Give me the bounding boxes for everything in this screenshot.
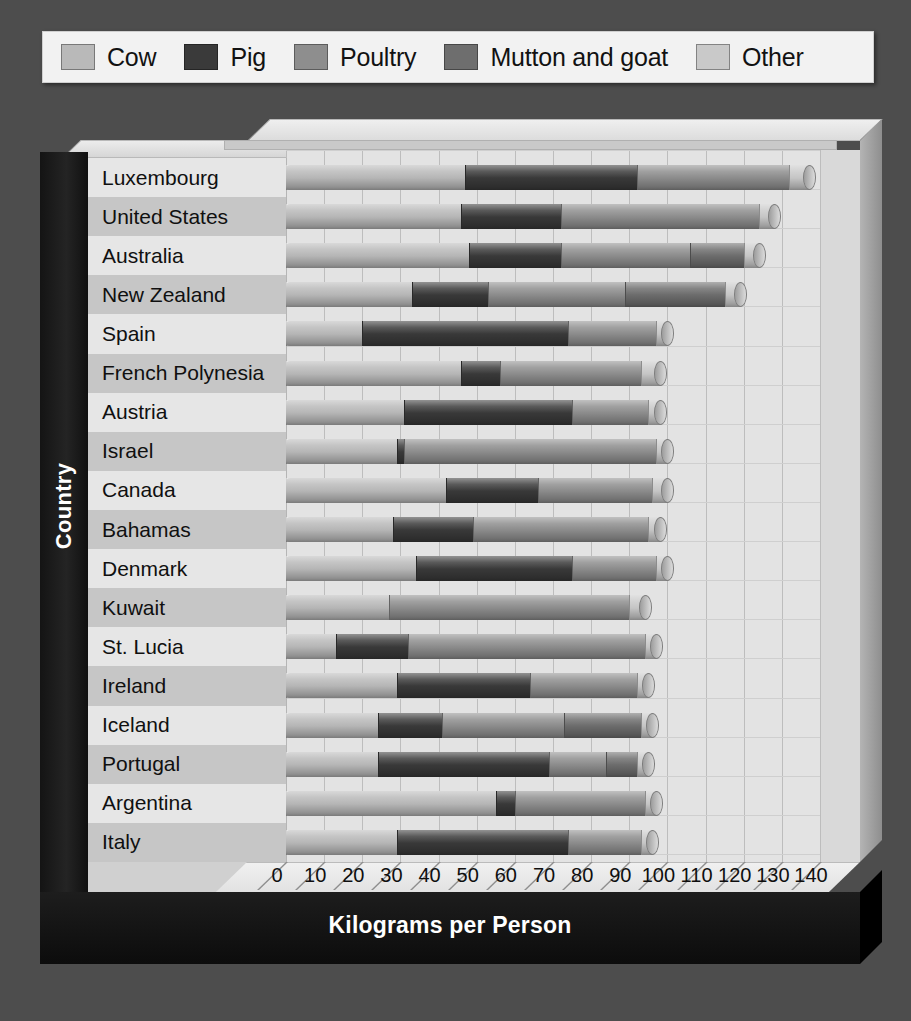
bar-segment-poultry[interactable] xyxy=(473,517,648,542)
bar-segment-poultry[interactable] xyxy=(442,713,564,738)
bar-row[interactable] xyxy=(286,275,860,314)
bar-row[interactable] xyxy=(286,393,860,432)
stacked-bar-argentina[interactable] xyxy=(286,791,656,816)
bar-row[interactable] xyxy=(286,510,860,549)
stacked-bar-israel[interactable] xyxy=(286,439,667,464)
bar-segment-pig[interactable] xyxy=(397,439,405,464)
stacked-bar-luxembourg[interactable] xyxy=(286,165,809,190)
category-label-luxembourg[interactable]: Luxembourg xyxy=(88,158,286,197)
bar-segment-cow[interactable] xyxy=(286,204,461,229)
bar-segment-cow[interactable] xyxy=(286,165,465,190)
category-label-bahamas[interactable]: Bahamas xyxy=(88,510,286,549)
bar-segment-pig[interactable] xyxy=(496,791,515,816)
bar-row[interactable] xyxy=(286,236,860,275)
bar-segment-cow[interactable] xyxy=(286,361,461,386)
bar-segment-pig[interactable] xyxy=(412,282,488,307)
stacked-bar-portugal[interactable] xyxy=(286,752,648,777)
bar-segment-pig[interactable] xyxy=(336,634,408,659)
stacked-bar-kuwait[interactable] xyxy=(286,595,645,620)
bar-segment-pig[interactable] xyxy=(393,517,473,542)
bar-row[interactable] xyxy=(286,314,860,353)
bar-row[interactable] xyxy=(286,588,860,627)
bar-segment-pig[interactable] xyxy=(461,361,499,386)
stacked-bar-united-states[interactable] xyxy=(286,204,774,229)
bar-segment-poultry[interactable] xyxy=(549,752,606,777)
bar-segment-poultry[interactable] xyxy=(538,478,652,503)
bar-segment-cow[interactable] xyxy=(286,400,404,425)
bar-segment-mutton-and-goat[interactable] xyxy=(564,713,640,738)
bar-segment-cow[interactable] xyxy=(286,439,397,464)
stacked-bar-iceland[interactable] xyxy=(286,713,652,738)
bar-segment-poultry[interactable] xyxy=(500,361,641,386)
stacked-bar-canada[interactable] xyxy=(286,478,667,503)
stacked-bar-australia[interactable] xyxy=(286,243,759,268)
bar-segment-poultry[interactable] xyxy=(561,243,691,268)
bar-row[interactable] xyxy=(286,158,860,197)
bar-row[interactable] xyxy=(286,471,860,510)
bar-segment-pig[interactable] xyxy=(465,165,637,190)
bar-segment-poultry[interactable] xyxy=(568,830,640,855)
stacked-bar-ireland[interactable] xyxy=(286,673,648,698)
stacked-bar-french-polynesia[interactable] xyxy=(286,361,660,386)
bar-segment-cow[interactable] xyxy=(286,830,397,855)
bar-segment-poultry[interactable] xyxy=(389,595,629,620)
bar-segment-poultry[interactable] xyxy=(488,282,625,307)
category-label-spain[interactable]: Spain xyxy=(88,314,286,353)
bar-segment-cow[interactable] xyxy=(286,673,397,698)
category-label-italy[interactable]: Italy xyxy=(88,823,286,862)
bar-segment-pig[interactable] xyxy=(461,204,560,229)
bar-segment-pig[interactable] xyxy=(378,713,443,738)
stacked-bar-bahamas[interactable] xyxy=(286,517,660,542)
bar-segment-poultry[interactable] xyxy=(637,165,790,190)
bar-segment-poultry[interactable] xyxy=(515,791,645,816)
bar-row[interactable] xyxy=(286,666,860,705)
bar-segment-poultry[interactable] xyxy=(408,634,644,659)
bar-segment-cow[interactable] xyxy=(286,556,416,581)
bar-row[interactable] xyxy=(286,354,860,393)
bar-segment-poultry[interactable] xyxy=(572,400,648,425)
bar-segment-mutton-and-goat[interactable] xyxy=(625,282,724,307)
category-label-french-polynesia[interactable]: French Polynesia xyxy=(88,354,286,393)
category-label-st-lucia[interactable]: St. Lucia xyxy=(88,627,286,666)
bar-segment-poultry[interactable] xyxy=(530,673,637,698)
bar-segment-pig[interactable] xyxy=(378,752,550,777)
stacked-bar-italy[interactable] xyxy=(286,830,652,855)
category-label-ireland[interactable]: Ireland xyxy=(88,666,286,705)
bar-row[interactable] xyxy=(286,706,860,745)
bar-segment-poultry[interactable] xyxy=(404,439,656,464)
bar-row[interactable] xyxy=(286,549,860,588)
bar-segment-cow[interactable] xyxy=(286,791,496,816)
bar-segment-poultry[interactable] xyxy=(561,204,759,229)
bar-segment-pig[interactable] xyxy=(469,243,561,268)
bar-segment-mutton-and-goat[interactable] xyxy=(606,752,637,777)
category-label-denmark[interactable]: Denmark xyxy=(88,549,286,588)
bar-segment-cow[interactable] xyxy=(286,634,336,659)
category-label-canada[interactable]: Canada xyxy=(88,471,286,510)
bar-segment-pig[interactable] xyxy=(404,400,572,425)
bar-segment-poultry[interactable] xyxy=(572,556,656,581)
bar-row[interactable] xyxy=(286,823,860,862)
bar-segment-cow[interactable] xyxy=(286,517,393,542)
bar-segment-mutton-and-goat[interactable] xyxy=(690,243,743,268)
bar-segment-cow[interactable] xyxy=(286,595,389,620)
bar-segment-cow[interactable] xyxy=(286,321,362,346)
bar-segment-poultry[interactable] xyxy=(568,321,656,346)
bar-segment-pig[interactable] xyxy=(362,321,568,346)
category-label-israel[interactable]: Israel xyxy=(88,432,286,471)
category-label-portugal[interactable]: Portugal xyxy=(88,745,286,784)
bar-segment-pig[interactable] xyxy=(416,556,572,581)
bar-segment-cow[interactable] xyxy=(286,752,378,777)
category-label-united-states[interactable]: United States xyxy=(88,197,286,236)
bar-row[interactable] xyxy=(286,745,860,784)
bar-segment-cow[interactable] xyxy=(286,478,446,503)
stacked-bar-austria[interactable] xyxy=(286,400,660,425)
bar-segment-pig[interactable] xyxy=(446,478,538,503)
bar-segment-cow[interactable] xyxy=(286,713,378,738)
bar-row[interactable] xyxy=(286,784,860,823)
bar-segment-cow[interactable] xyxy=(286,282,412,307)
bar-segment-pig[interactable] xyxy=(397,673,531,698)
stacked-bar-spain[interactable] xyxy=(286,321,667,346)
stacked-bar-denmark[interactable] xyxy=(286,556,667,581)
category-label-kuwait[interactable]: Kuwait xyxy=(88,588,286,627)
bar-row[interactable] xyxy=(286,197,860,236)
